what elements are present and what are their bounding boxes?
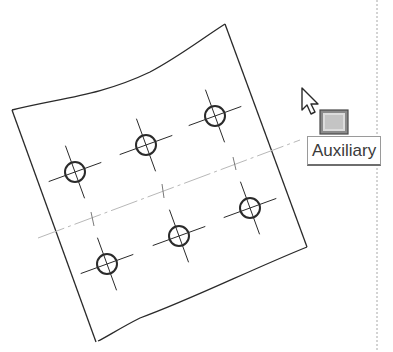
arrow-pointer-icon bbox=[302, 88, 318, 114]
hole[interactable] bbox=[153, 210, 206, 263]
hole[interactable] bbox=[120, 119, 173, 172]
centerline bbox=[38, 140, 300, 238]
tooltip-label: Auxiliary bbox=[312, 141, 376, 160]
plate-bottom-edge bbox=[98, 247, 307, 341]
centerline-tick bbox=[233, 157, 236, 170]
plate-right-edge bbox=[225, 24, 307, 247]
tooltip: Auxiliary bbox=[307, 136, 381, 166]
plate-left-edge bbox=[12, 110, 96, 342]
auxiliary-view-icon bbox=[320, 110, 348, 134]
plate-top-edge bbox=[12, 24, 225, 110]
drawing-canvas[interactable] bbox=[0, 0, 393, 352]
hole[interactable] bbox=[49, 146, 102, 199]
hole[interactable] bbox=[189, 90, 242, 143]
centerline-tick bbox=[91, 212, 94, 226]
hole[interactable] bbox=[81, 238, 134, 291]
sheet-metal-plate[interactable] bbox=[12, 24, 307, 342]
hole[interactable] bbox=[224, 182, 277, 235]
